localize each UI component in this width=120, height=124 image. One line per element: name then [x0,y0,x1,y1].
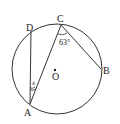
label-o: O [52,71,59,82]
segment-da [30,31,31,104]
angle-arc-a-2 [30,87,35,88]
circle-o [12,24,102,114]
label-b: B [103,65,110,76]
label-d: D [26,22,33,33]
segment-cb [61,25,101,69]
label-c: C [57,13,64,24]
label-a: A [24,107,32,118]
segment-ac [30,25,61,104]
angle-label-c: 63° [59,38,70,47]
angle-label-a: x [31,79,36,87]
angle-arc-c [58,33,67,35]
circle-diagram: C D A B O 63° x [0,0,120,124]
